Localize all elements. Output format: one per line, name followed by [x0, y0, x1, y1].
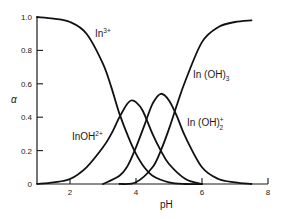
y-tick-label: 1.0	[21, 13, 33, 22]
x-tick-label: 6	[200, 188, 205, 197]
y-tick-label: 0.4	[21, 113, 33, 122]
y-ticks: 00.20.40.60.81.0	[21, 13, 43, 189]
y-tick-label: 0.6	[21, 80, 33, 89]
series-label-inoh2plus: InOH2+	[72, 130, 103, 142]
speciation-chart: 00.20.40.60.81.0 2468 α pH In3+ InOH2+ I…	[0, 0, 282, 219]
x-tick-label: 4	[134, 188, 139, 197]
curve-in3plus	[37, 17, 202, 184]
x-tick-label: 2	[68, 188, 73, 197]
y-tick-label: 0.8	[21, 46, 33, 55]
axes	[37, 17, 268, 184]
curves	[37, 17, 252, 184]
y-axis-label: α	[11, 94, 17, 105]
series-label-in3plus: In3+	[95, 27, 111, 39]
series-label-inoh3: In (OH)3	[193, 69, 230, 82]
y-tick-label: 0.2	[21, 147, 33, 156]
x-ticks: 2468	[68, 178, 271, 197]
y-tick-label: 0	[28, 180, 33, 189]
x-tick-label: 8	[266, 188, 271, 197]
x-axis-label: pH	[160, 199, 173, 210]
series-label-inoh2plus-cation: In (OH)+2	[187, 116, 224, 131]
